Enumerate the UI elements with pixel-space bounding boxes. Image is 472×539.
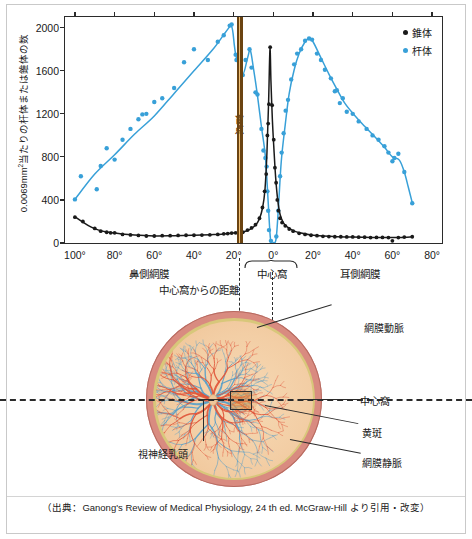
x-tick-label-5: 0° [268, 243, 278, 261]
x-tick-mark-2 [154, 12, 155, 17]
vessel-segment [185, 438, 186, 445]
vessel-segment [178, 353, 181, 355]
vessel-segment [210, 349, 213, 351]
vessel-segment [205, 360, 206, 365]
data-series-layer [65, 17, 442, 243]
data-point [184, 233, 188, 237]
data-point [315, 234, 319, 238]
vessel-segment [234, 357, 235, 360]
data-point [396, 151, 400, 155]
vessel-segment [280, 385, 285, 387]
data-point [333, 235, 337, 239]
vessel-segment [230, 375, 232, 381]
vessel-segment [248, 416, 261, 420]
vessel-segment [159, 366, 164, 370]
data-point [295, 51, 299, 55]
vessel-segment [185, 351, 189, 356]
vessel-segment [253, 454, 260, 458]
vessel-segment [179, 461, 185, 467]
vessel-segment [246, 371, 249, 374]
data-point [144, 112, 148, 116]
vessel-segment [226, 426, 229, 430]
data-point [402, 170, 406, 174]
vessel-segment [210, 433, 212, 438]
data-point [247, 47, 251, 51]
data-point [258, 216, 262, 220]
vessel-segment [267, 446, 268, 454]
vessel-segment [159, 442, 168, 443]
data-point [243, 58, 247, 62]
vessel-segment [231, 450, 244, 451]
vessel-segment [207, 368, 211, 375]
data-point [386, 150, 390, 154]
vessel-segment [276, 396, 283, 397]
y-tick-mark-800 [60, 156, 65, 157]
vessel-segment [164, 362, 165, 367]
data-point [105, 230, 109, 234]
vessel-segment [204, 444, 206, 450]
x-tick-mark-9 [431, 12, 432, 17]
vessel-segment [189, 472, 191, 478]
data-point [259, 127, 263, 131]
vessel-segment [226, 349, 228, 357]
vessel-segment [254, 409, 259, 412]
data-point [410, 235, 414, 239]
vessel-segment [228, 350, 231, 357]
vessel-segment [257, 362, 258, 367]
vessel-segment [198, 359, 205, 368]
vessel-segment [278, 431, 283, 433]
data-point [297, 231, 301, 235]
vessel-segment [195, 355, 200, 356]
data-point [339, 235, 343, 239]
vessel-segment [215, 345, 216, 350]
vessel-segment [197, 364, 198, 370]
data-point [291, 229, 295, 233]
data-point [278, 174, 282, 178]
vessel-segment [195, 423, 208, 438]
vessel-segment [226, 357, 228, 368]
temporal-retina-caption: 耳側網膜 [340, 266, 380, 281]
data-point [113, 231, 117, 235]
vessel-segment [170, 426, 175, 427]
x-tick-label-1: 80° [107, 243, 123, 261]
vessel-segment [157, 432, 165, 434]
vessel-segment [194, 359, 195, 364]
x-axis-label: 中心窩からの距離 [159, 282, 239, 297]
vessel-segment [156, 377, 160, 386]
vessel-segment [250, 458, 252, 464]
vessel-segment [281, 424, 283, 430]
vessel-segment [218, 457, 226, 466]
data-point [267, 228, 271, 232]
vessel-segment [175, 431, 179, 434]
vessel-segment [233, 469, 239, 471]
vessel-segment [213, 358, 214, 369]
data-point [112, 157, 116, 161]
y-axis-label-text: 0.0069mm2当たりの杆体または錐体の数 [18, 34, 29, 213]
vessel-segment [208, 343, 209, 347]
vessel-segment [229, 438, 236, 443]
data-point [268, 45, 272, 49]
vessel-segment [183, 345, 184, 351]
vessel-segment [225, 340, 226, 344]
vessel-segment [276, 418, 281, 424]
data-point [281, 131, 285, 135]
data-point [216, 232, 220, 236]
data-point [329, 76, 333, 80]
data-point [273, 166, 277, 170]
data-point [376, 137, 380, 141]
vessel-segment [231, 452, 232, 456]
vessel-segment [258, 401, 264, 403]
vessel-segment [237, 453, 238, 461]
vessel-segment [267, 384, 271, 386]
vessel-segment [235, 470, 237, 477]
data-point [375, 236, 379, 240]
data-point [286, 98, 290, 102]
vessel-segment [245, 346, 247, 353]
data-point [129, 233, 133, 237]
vessel-segment [220, 340, 221, 345]
vessel-segment [276, 417, 283, 418]
vessel-segment [242, 454, 245, 463]
vessel-segment [196, 360, 197, 365]
vessel-segment [252, 440, 257, 452]
vessel-segment [242, 356, 246, 359]
